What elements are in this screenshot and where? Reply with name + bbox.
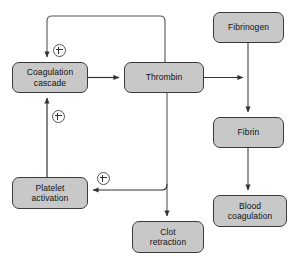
node-coagulation-cascade-label: Coagulation cascade [25, 67, 75, 88]
node-fibrinogen[interactable]: Fibrinogen [213, 12, 284, 43]
node-blood-coagulation[interactable]: Blood coagulation [213, 195, 287, 227]
node-blood-coagulation-label: Blood coagulation [226, 201, 275, 222]
node-thrombin[interactable]: Thrombin [124, 62, 204, 93]
node-thrombin-label: Thrombin [144, 72, 185, 83]
node-clot-retraction[interactable]: Clot retraction [132, 221, 204, 253]
node-coagulation-cascade[interactable]: Coagulation cascade [12, 62, 88, 93]
node-platelet-activation-label: Platelet activation [30, 183, 71, 204]
node-fibrinogen-label: Fibrinogen [226, 22, 271, 33]
plus-sign-icon-platelet-feedback [52, 110, 65, 123]
node-clot-retraction-label: Clot retraction [148, 227, 188, 248]
node-fibrin[interactable]: Fibrin [213, 117, 284, 148]
plus-sign-icon-thrombin-feedback [53, 44, 66, 57]
flowchart-diagram: Coagulation cascade Thrombin Fibrinogen … [0, 0, 297, 257]
node-fibrin-label: Fibrin [236, 127, 262, 138]
plus-sign-icon-thrombin-platelet [97, 172, 110, 185]
node-platelet-activation[interactable]: Platelet activation [12, 177, 88, 209]
edge-thrombin-to-cascade-feedback [47, 16, 165, 62]
